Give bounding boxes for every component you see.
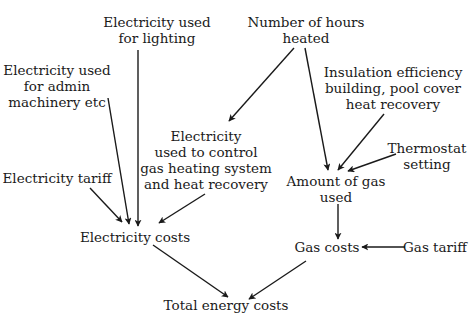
node-electricity-admin: Electricity used for admin machinery etc (3, 62, 110, 110)
edge-control-to-elec-costs (159, 194, 205, 223)
node-electricity-lighting: Electricity used for lighting (103, 14, 210, 46)
edge-gas-costs-to-total (249, 261, 306, 299)
edge-admin-to-elec-costs (108, 98, 129, 224)
node-total-energy-costs: Total energy costs (164, 297, 289, 313)
node-text: Electricity tariff (3, 170, 112, 186)
node-gas-costs: Gas costs (294, 239, 359, 255)
node-text: Electricity costs (80, 229, 190, 245)
node-electricity-tariff: Electricity tariff (3, 170, 112, 186)
edge-hours-to-control (229, 48, 294, 121)
edge-elec-costs-to-total (153, 245, 228, 297)
node-electricity-control: Electricity used to control gas heating … (140, 128, 272, 192)
node-text: for admin (3, 78, 110, 94)
node-text: Number of hours (248, 14, 365, 30)
influence-diagram: Electricity used for lighting Electricit… (0, 0, 475, 323)
node-text: Gas costs (294, 239, 359, 255)
node-text: building, pool cover (324, 80, 463, 96)
node-gas-tariff: Gas tariff (403, 239, 467, 255)
node-text: heated (248, 30, 365, 46)
node-text: Electricity used (103, 14, 210, 30)
node-text: Thermostat (388, 140, 467, 156)
node-text: used (287, 189, 386, 205)
node-text: Amount of gas (287, 173, 386, 189)
node-text: heat recovery (324, 96, 463, 112)
node-electricity-costs: Electricity costs (80, 229, 190, 245)
node-text: Gas tariff (403, 239, 467, 255)
node-text: machinery etc (3, 94, 110, 110)
node-text: for lighting (103, 30, 210, 46)
node-text: Total energy costs (164, 297, 289, 313)
node-thermostat-setting: Thermostat setting (388, 140, 467, 172)
node-amount-of-gas: Amount of gas used (287, 173, 386, 205)
node-text: Electricity used (3, 62, 110, 78)
node-text: Insulation efficiency (324, 64, 463, 80)
node-hours-heated: Number of hours heated (248, 14, 365, 46)
node-text: Electricity (140, 128, 272, 144)
node-text: gas heating system (140, 160, 272, 176)
edge-tariff-to-elec-costs (90, 188, 122, 222)
node-insulation-efficiency: Insulation efficiency building, pool cov… (324, 64, 463, 112)
edge-insulation-to-gas-amount (338, 114, 384, 170)
node-text: used to control (140, 144, 272, 160)
node-text: setting (388, 156, 467, 172)
node-text: and heat recovery (140, 176, 272, 192)
